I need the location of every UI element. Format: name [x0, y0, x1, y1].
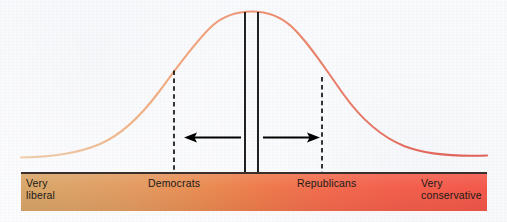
right-pointing-arrow — [263, 132, 320, 142]
bell-curve-path — [21, 12, 487, 158]
ideology-spectrum-bar — [21, 172, 487, 211]
ideology-distribution-figure: Very liberal Democrats Republicans Very … — [0, 0, 507, 222]
axis-label-very-liberal: Very liberal — [26, 178, 55, 201]
axis-label-republicans: Republicans — [297, 178, 356, 190]
left-pointing-arrow — [184, 132, 241, 142]
axis-label-democrats: Democrats — [148, 178, 200, 190]
axis-label-very-conservative: Very conservative — [421, 178, 482, 201]
spectrum-gradient-fill — [21, 174, 487, 211]
